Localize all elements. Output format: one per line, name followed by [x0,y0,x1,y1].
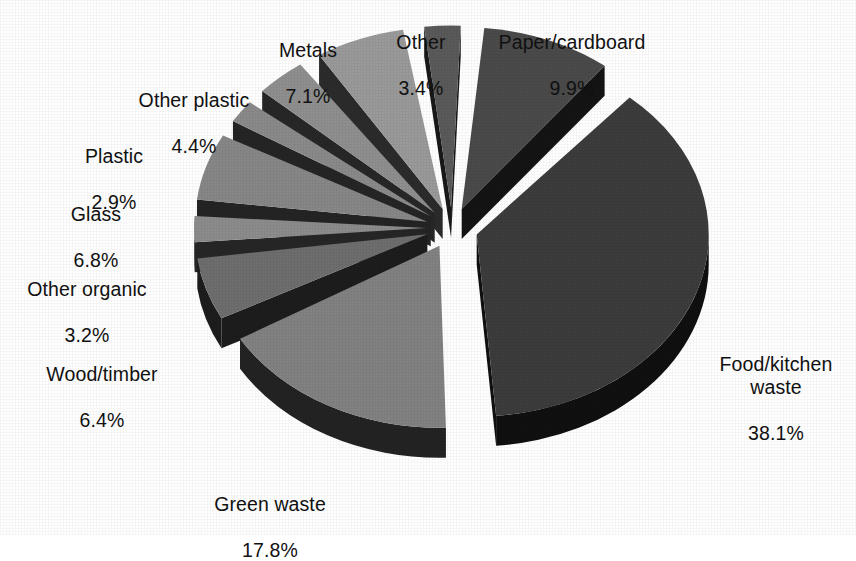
slice-label-green-waste-value: 17.8% [180,539,360,561]
slice-label-metals-name: Metals [248,39,368,62]
slice-label-food-kitchen-waste-name: Food/kitchen waste [700,353,852,399]
slice-label-food-kitchen-waste: Food/kitchen waste 38.1% [700,330,852,468]
slice-label-other-name: Other [368,31,474,54]
slice-label-green-waste-name: Green waste [180,493,360,516]
slice-label-glass-value: 6.8% [38,249,154,272]
slice-label-plastic-value: 2.9% [56,191,172,214]
slice-label-metals-value: 7.1% [248,85,368,108]
slice-label-paper-cardboard: Paper/cardboard 9.9% [462,8,682,123]
slice-label-other-plastic-value: 4.4% [110,135,278,158]
slice-label-other-organic-value: 3.2% [0,324,174,347]
slice-label-paper-cardboard-name: Paper/cardboard [462,31,682,54]
slice-label-wood-timber-value: 6.4% [18,409,186,432]
slice-label-metals: Metals 7.1% [248,16,368,131]
slice-label-paper-cardboard-value: 9.9% [462,77,682,100]
slice-label-food-kitchen-waste-value: 38.1% [700,422,852,445]
slice-label-green-waste: Green waste 17.8% [180,470,360,561]
slice-label-other: Other 3.4% [368,8,474,123]
slice-label-other-value: 3.4% [368,77,474,100]
